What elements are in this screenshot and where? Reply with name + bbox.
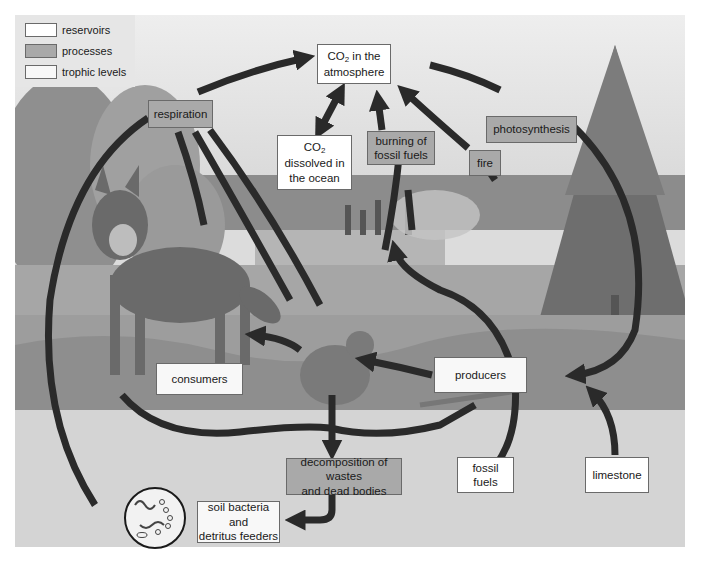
legend-item-processes: processes (25, 44, 112, 58)
label-text: producers (455, 368, 506, 382)
reservoir-co2-ocean: CO2 dissolved in the ocean (277, 135, 352, 190)
process-burning-fossil-fuels: burning of fossil fuels (367, 131, 435, 165)
legend-swatch-processes (25, 44, 57, 58)
legend: reservoirs processes trophic levels (15, 15, 135, 87)
arrow-burning-to-atmosphere (378, 100, 382, 130)
process-fire: fire (469, 150, 501, 176)
process-photosynthesis: photosynthesis (486, 116, 577, 143)
label-text: limestone (592, 468, 641, 482)
label-text: CO (327, 50, 344, 62)
label-text: atmosphere (324, 66, 385, 78)
label-text: in the (349, 50, 380, 62)
legend-item-trophic-levels: trophic levels (25, 65, 126, 79)
reservoir-co2-atmosphere: CO2 in the atmosphere (317, 44, 391, 84)
arrow-rabbit-to-wolf (255, 335, 300, 350)
arrow-respiration-to-atmosphere (198, 58, 305, 92)
trophic-producers: producers (434, 357, 527, 393)
label-text: detritus feeders (199, 530, 278, 542)
arrow-producers-to-rabbit (365, 360, 432, 375)
process-respiration: respiration (148, 100, 213, 128)
label-text: fossil (472, 462, 498, 474)
arrow-atmosphere-ocean (320, 92, 340, 130)
process-decomposition: decomposition of wastes and dead bodies (286, 458, 402, 495)
trophic-consumers: consumers (156, 363, 243, 395)
legend-label: trophic levels (62, 66, 126, 78)
legend-label: reservoirs (62, 24, 110, 36)
label-text: consumers (171, 372, 227, 386)
label-text: CO (304, 141, 321, 153)
reservoir-limestone: limestone (585, 457, 649, 493)
arrow-photosynthesis-to-producers (567, 120, 639, 375)
subscript: 2 (321, 146, 325, 155)
legend-swatch-reservoirs (25, 23, 57, 37)
label-text: and dead bodies (301, 485, 386, 497)
label-text: decomposition of wastes (301, 456, 388, 482)
label-text: fossil fuels (374, 149, 428, 161)
legend-swatch-trophic-levels (25, 65, 57, 79)
legend-label: processes (62, 45, 112, 57)
label-text: and (229, 516, 248, 528)
bacteria-magnified-icon (125, 488, 185, 548)
arrow-decomposition-to-soil-bacteria (295, 495, 332, 520)
label-text: fire (477, 156, 493, 170)
legend-item-reservoirs: reservoirs (25, 23, 110, 37)
label-text: burning of (375, 135, 426, 147)
label-text: the ocean (289, 172, 340, 184)
reservoir-fossil-fuels: fossil fuels (457, 457, 514, 493)
label-text: photosynthesis (493, 122, 570, 136)
label-text: dissolved in (284, 157, 344, 169)
label-text: soil bacteria (208, 501, 269, 513)
trophic-soil-bacteria-detritus-feeders: soil bacteria and detritus feeders (197, 501, 280, 543)
label-text: respiration (154, 107, 208, 121)
arrow-limestone-to-producers (593, 393, 615, 455)
label-text: fuels (473, 476, 497, 488)
